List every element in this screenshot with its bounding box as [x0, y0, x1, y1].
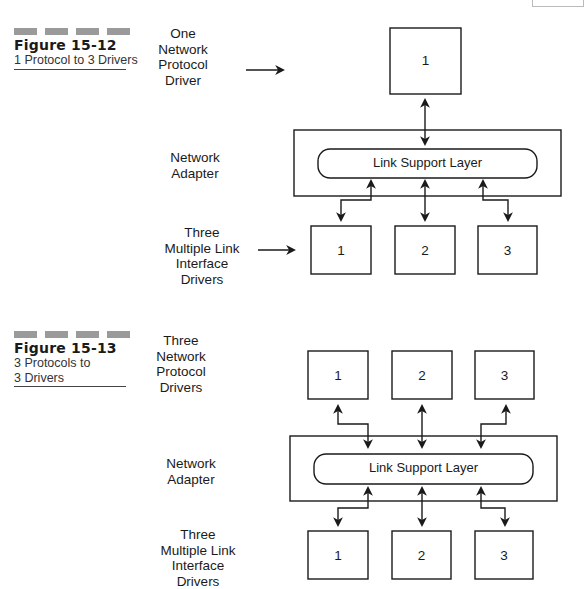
- fig1-driver-box-2-label: 2: [395, 243, 455, 259]
- fig2-driver-box-3-label: 3: [475, 548, 533, 564]
- fig1-driver-box-1-label: 1: [311, 243, 371, 259]
- fig1-protocol-box-1-label: 1: [390, 53, 461, 69]
- fig1-lsl-label: Link Support Layer: [318, 155, 537, 171]
- fig1-driver-box-3-label: 3: [478, 243, 537, 259]
- fig2-lsl-label: Link Support Layer: [314, 460, 533, 476]
- fig2-driver-box-1-label: 1: [308, 548, 368, 564]
- fig2-protocol-box-2-label: 2: [392, 368, 452, 384]
- fig2-driver-box-2-label: 2: [392, 548, 451, 564]
- fig2-protocol-box-1-label: 1: [308, 368, 368, 384]
- fig2-protocol-box-3-label: 3: [475, 368, 534, 384]
